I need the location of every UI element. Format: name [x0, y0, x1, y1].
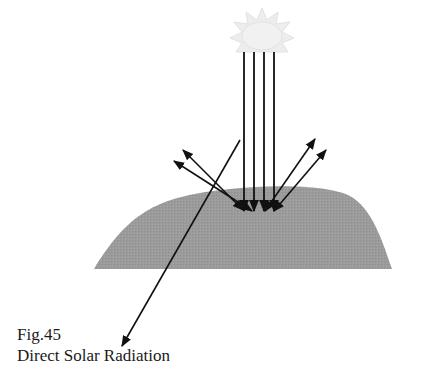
hill — [94, 186, 392, 269]
figure-caption: Fig.45 Direct Solar Radiation — [17, 324, 170, 366]
figure-title: Direct Solar Radiation — [17, 345, 170, 366]
sun-icon — [230, 8, 294, 52]
figure-number: Fig.45 — [17, 324, 170, 345]
direct-solar-radiation-diagram — [0, 0, 436, 378]
